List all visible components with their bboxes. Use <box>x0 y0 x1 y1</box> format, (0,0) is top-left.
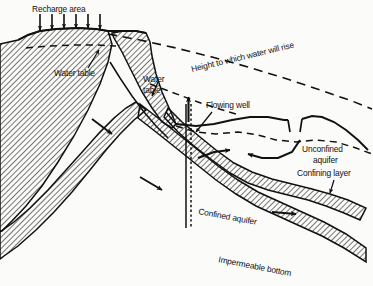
label-water-table-mid-line2: table <box>143 85 161 95</box>
aquifer-cross-section-figure: Recharge area Water table Water table He… <box>0 0 373 286</box>
label-water-table-mid-line1: Water <box>143 74 165 84</box>
label-recharge-area: Recharge area <box>32 4 86 14</box>
label-unconfined-aquifer-line1: Unconfined <box>302 144 343 154</box>
label-flowing-well: Flowing well <box>206 100 250 110</box>
diagram-canvas: Recharge area Water table Water table He… <box>0 0 373 286</box>
label-water-table-left: Water table <box>54 68 95 78</box>
label-confining-layer: Confining layer <box>297 168 351 178</box>
label-unconfined-aquifer-line2: aquifer <box>313 155 338 165</box>
